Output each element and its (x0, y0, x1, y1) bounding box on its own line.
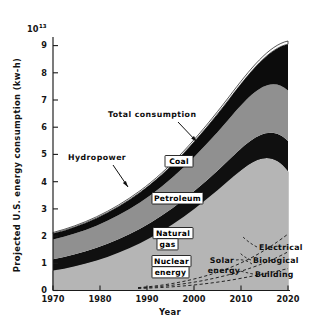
chart-figure: 10 13 0 1 2 3 4 5 6 7 8 9 1970 1980 1990… (0, 0, 315, 326)
x-tick-label-2010: 2010 (230, 294, 253, 304)
x-tick-label-2000: 2000 (183, 294, 206, 304)
energy-consumption-area-chart: 10 13 0 1 2 3 4 5 6 7 8 9 1970 1980 1990… (0, 0, 315, 326)
y-tick-label-7: 7 (41, 95, 47, 105)
y-tick-label-5: 5 (41, 149, 47, 159)
y-tick-label-2: 2 (41, 231, 47, 241)
band-label-text-nuclear: Nuclear (154, 257, 189, 266)
callout-label-total-consumption: Total consumption (108, 110, 196, 119)
band-label-text-natural: Natural (156, 229, 190, 238)
y-tick-label-6: 6 (41, 122, 47, 132)
band-label-petroleum: Petroleum (152, 193, 203, 205)
y-tick-label-8: 8 (41, 68, 47, 78)
y-tick-label-4: 4 (41, 177, 47, 187)
right-label-text-electrical: Electrical (259, 243, 303, 252)
exponent-base: 10 (27, 24, 39, 34)
x-tick-label-1990: 1990 (136, 294, 159, 304)
band-label-text-petroleum: Petroleum (154, 194, 201, 203)
right-label-text-building: Building (255, 270, 294, 279)
x-tick-label-1980: 1980 (89, 294, 112, 304)
band-label-nuclear-energy: Nuclear energy (152, 256, 191, 278)
band-label-text-gas: gas (160, 240, 176, 249)
y-tick-label-9: 9 (41, 40, 47, 50)
band-label-coal: Coal (165, 156, 193, 168)
x-tick-label-1970: 1970 (42, 294, 65, 304)
x-axis-title: Year (158, 307, 182, 317)
y-tick-label-1: 1 (41, 258, 47, 268)
y-tick-label-3: 3 (41, 204, 47, 214)
solar-energy-line2: energy (208, 266, 240, 275)
band-label-text-coal: Coal (169, 157, 189, 166)
solar-energy-line1: Solar (210, 256, 234, 265)
x-tick-label-2020: 2020 (277, 294, 300, 304)
band-label-text-energy: energy (155, 268, 187, 277)
right-label-text-biological: Biological (253, 256, 299, 265)
callout-label-hydropower: Hydropower (68, 153, 126, 162)
exponent-power: 13 (39, 23, 47, 29)
y-axis-title: Projected U.S. energy consumption (kw-h) (12, 58, 22, 272)
